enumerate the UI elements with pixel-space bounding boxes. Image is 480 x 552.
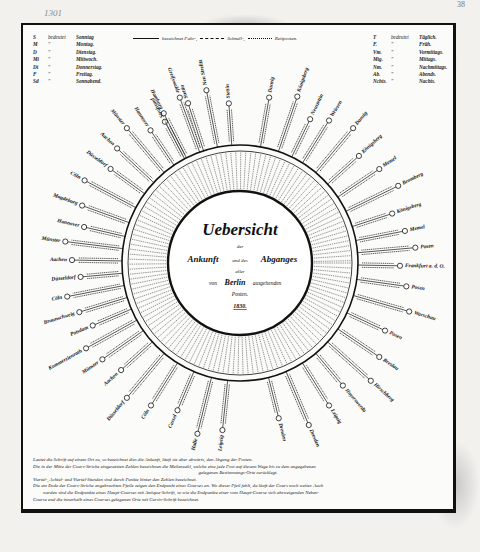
- station-marker-icon: [77, 310, 82, 315]
- destination-label: Hannover: [133, 105, 152, 129]
- timetable-row: [226, 153, 231, 190]
- destination-label: Frankfurt a. d. O.: [405, 262, 445, 269]
- station-marker-icon: [340, 383, 345, 388]
- schedule-text: [342, 329, 375, 351]
- timetable-row: [173, 322, 195, 351]
- timetable-row: [169, 320, 193, 348]
- schedule-text: [227, 110, 229, 142]
- station-marker-icon: [90, 323, 95, 328]
- destination-label: Cassel: [166, 413, 177, 429]
- destination-label: Greifswalde: [167, 67, 182, 95]
- schedule-text: [320, 134, 351, 171]
- schedule-text: [278, 102, 294, 147]
- destination-label: Düsseldorf: [105, 398, 127, 422]
- station-marker-icon: [377, 354, 382, 359]
- route-line: [102, 331, 143, 360]
- station-marker-icon: [69, 257, 74, 262]
- destination-label: Breslau: [381, 356, 400, 371]
- timetable-row: [303, 301, 335, 320]
- schedule-text: [329, 346, 365, 378]
- timetable-row: [233, 337, 235, 374]
- timetable-row: [132, 280, 168, 289]
- timetable-row: [151, 308, 181, 330]
- destination-label: Magdeburg: [52, 191, 79, 206]
- timetable-row: [252, 336, 258, 373]
- schedule-text: [114, 174, 140, 193]
- timetable-row: [148, 305, 179, 326]
- timetable-row: [154, 310, 183, 334]
- explanatory-notes: Lautet die Schrift auf einem Ort zu, so …: [33, 457, 443, 503]
- timetable-row: [314, 251, 351, 255]
- schedule-text: [117, 171, 143, 190]
- timetable-row: [273, 164, 289, 197]
- schedule-text: [332, 162, 356, 183]
- destination-label: Aachen: [49, 256, 67, 262]
- svg-text:Posten.: Posten.: [231, 291, 248, 297]
- timetable-row: [274, 329, 291, 362]
- station-marker-icon: [82, 178, 87, 183]
- route-line: [93, 309, 132, 325]
- station-marker-icon: [185, 101, 190, 106]
- destination-label: Hoyerswerda: [344, 386, 368, 413]
- timetable-row: [284, 174, 306, 204]
- station-marker-icon: [148, 403, 153, 408]
- timetable-row: [218, 336, 225, 372]
- schedule-text: [205, 97, 214, 144]
- destination-label: Cöln: [51, 294, 63, 302]
- timetable-row: [259, 335, 268, 371]
- destination-label: Aachen: [101, 371, 118, 388]
- schedule-text: [129, 355, 160, 392]
- timetable-row: [161, 315, 187, 341]
- station-marker-icon: [368, 378, 373, 383]
- destination-label: Bromberg: [400, 170, 424, 186]
- schedule-text: [272, 381, 280, 412]
- schedule-text: [317, 358, 338, 383]
- timetable-row: [312, 236, 348, 245]
- schedule-text: [73, 284, 120, 293]
- route-line: [269, 377, 279, 418]
- note-line: Die am Ende der Cours-Striche angebracht…: [33, 483, 443, 490]
- svg-text:von: von: [209, 280, 217, 286]
- destination-label: Cöln: [139, 408, 150, 420]
- timetable-row: [144, 206, 176, 225]
- svg-text:Ankunft: Ankunft: [186, 254, 219, 264]
- destination-label: Wriezen: [328, 99, 343, 117]
- schedule-text: [329, 158, 353, 179]
- timetable-row: [271, 330, 287, 364]
- schedule-text: [303, 368, 324, 402]
- timetable-row: [312, 280, 348, 288]
- destination-label: Stettin: [224, 84, 231, 99]
- timetable-row: [216, 155, 224, 191]
- schedule-text: [89, 185, 131, 208]
- route-line: [347, 313, 385, 331]
- timetable-row: [131, 244, 167, 250]
- destination-label: Aachen: [99, 130, 116, 147]
- timetable-row: [297, 191, 325, 215]
- route-line: [286, 372, 309, 425]
- destination-label: Dresden: [308, 427, 321, 447]
- route-line: [177, 372, 193, 411]
- schedule-text: [132, 358, 163, 395]
- schedule-text: [362, 267, 394, 268]
- timetable-row: [292, 184, 318, 210]
- route-line: [260, 98, 269, 147]
- timetable-row: [213, 335, 222, 371]
- timetable-row: [245, 337, 248, 374]
- station-marker-icon: [356, 153, 361, 158]
- note-line: gelegenen Bestimmungs-Orte zurücklegt.: [33, 470, 443, 477]
- station-marker-icon: [65, 294, 70, 299]
- timetable-row: [287, 177, 310, 206]
- timetable-row: [171, 176, 194, 205]
- timetable-row: [129, 254, 166, 257]
- timetable-row: [304, 208, 336, 226]
- timetable-row: [130, 270, 167, 274]
- schedule-text: [282, 103, 298, 148]
- schedule-text: [340, 171, 373, 193]
- schedule-text: [168, 118, 186, 154]
- timetable-row: [279, 168, 298, 200]
- station-marker-icon: [308, 117, 313, 122]
- schedule-text: [164, 120, 182, 156]
- page-number: 38: [457, 0, 465, 9]
- destination-label: Halle: [189, 437, 198, 452]
- route-line: [82, 206, 129, 223]
